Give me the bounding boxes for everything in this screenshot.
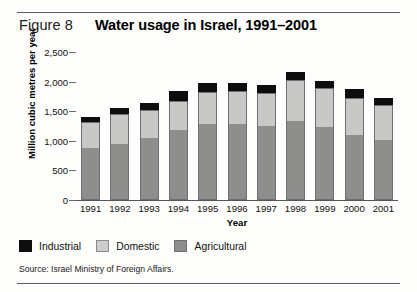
y-axis-tick-mark bbox=[69, 52, 76, 53]
x-axis-tick-label: 1995 bbox=[193, 203, 222, 214]
source-note: Source: Israel Ministry of Foreign Affai… bbox=[19, 264, 174, 274]
x-axis-tick-label: 2000 bbox=[339, 203, 368, 214]
y-axis-tick-label: 500 bbox=[52, 165, 68, 176]
bar-column[interactable] bbox=[345, 89, 364, 200]
bar-segment-agricultural bbox=[110, 144, 129, 200]
legend-swatch-agricultural bbox=[174, 240, 187, 252]
bar-segment-agricultural bbox=[345, 135, 364, 200]
y-axis-tick-mark bbox=[69, 82, 76, 83]
bar-segment-domestic bbox=[315, 88, 334, 126]
bar-segment-domestic bbox=[228, 91, 247, 124]
bar-segment-industrial bbox=[198, 83, 217, 92]
bar-segment-agricultural bbox=[315, 127, 334, 200]
bar-segment-industrial bbox=[228, 83, 247, 91]
bar-segment-agricultural bbox=[286, 121, 305, 200]
x-axis-tick-label: 1991 bbox=[76, 203, 105, 214]
y-axis-tick-mark bbox=[69, 200, 76, 201]
bar-segment-domestic bbox=[345, 98, 364, 135]
x-axis-tick-label: 1996 bbox=[222, 203, 251, 214]
bar-segment-agricultural bbox=[198, 124, 217, 200]
bar-segment-domestic bbox=[140, 110, 159, 138]
x-axis-tick-label: 1998 bbox=[281, 203, 310, 214]
bar-segment-domestic bbox=[286, 80, 305, 121]
y-axis-tick-mark bbox=[69, 141, 76, 142]
y-axis-tick-mark bbox=[69, 170, 76, 171]
bar-segment-domestic bbox=[169, 101, 188, 130]
legend-item-domestic[interactable]: Domestic bbox=[96, 240, 159, 252]
bar-segment-industrial bbox=[374, 98, 393, 105]
bar-segment-domestic bbox=[198, 92, 217, 124]
bar-segment-agricultural bbox=[140, 138, 159, 200]
x-axis-tick-label: 2001 bbox=[369, 203, 398, 214]
bar-column[interactable] bbox=[169, 91, 188, 200]
y-axis-tick-mark bbox=[69, 111, 76, 112]
chart-legend: IndustrialDomesticAgricultural bbox=[19, 240, 261, 252]
bar-column[interactable] bbox=[110, 108, 129, 200]
x-axis-tick-label: 1999 bbox=[310, 203, 339, 214]
y-axis-tick-label: 2,500 bbox=[44, 47, 68, 58]
bar-column[interactable] bbox=[315, 81, 334, 200]
legend-swatch-domestic bbox=[96, 240, 109, 252]
x-axis-tick-label: 1997 bbox=[252, 203, 281, 214]
y-axis-tick-label: 0 bbox=[63, 195, 68, 206]
bar-column[interactable] bbox=[198, 83, 217, 200]
legend-label: Domestic bbox=[116, 241, 159, 252]
x-axis-tick-label: 1994 bbox=[164, 203, 193, 214]
bar-column[interactable] bbox=[257, 85, 276, 200]
bar-segment-domestic bbox=[374, 105, 393, 141]
x-axis-tick-label: 1992 bbox=[105, 203, 134, 214]
bar-segment-agricultural bbox=[257, 126, 276, 200]
bar-segment-agricultural bbox=[81, 148, 100, 200]
bar-segment-domestic bbox=[257, 93, 276, 126]
x-axis-tick-label: 1993 bbox=[135, 203, 164, 214]
bar-segment-industrial bbox=[315, 81, 334, 88]
bar-segment-agricultural bbox=[228, 124, 247, 200]
x-axis-label: Year bbox=[76, 217, 398, 228]
bar-segment-industrial bbox=[169, 91, 188, 101]
bar-segment-agricultural bbox=[169, 130, 188, 200]
legend-label: Industrial bbox=[39, 241, 81, 252]
bar-column[interactable] bbox=[286, 72, 305, 200]
legend-item-agricultural[interactable]: Agricultural bbox=[174, 240, 246, 252]
y-axis-tick-label: 2,000 bbox=[44, 76, 68, 87]
legend-item-industrial[interactable]: Industrial bbox=[19, 240, 81, 252]
legend-swatch-industrial bbox=[19, 240, 32, 252]
bar-segment-domestic bbox=[110, 114, 129, 144]
figure-container: Figure 8 Water usage in Israel, 1991–200… bbox=[0, 0, 417, 292]
bar-column[interactable] bbox=[228, 83, 247, 200]
bar-column[interactable] bbox=[81, 117, 100, 200]
y-axis-tick-label: 1,000 bbox=[44, 135, 68, 146]
bar-segment-industrial bbox=[257, 85, 276, 93]
bar-segment-domestic bbox=[81, 122, 100, 148]
legend-label: Agricultural bbox=[194, 241, 246, 252]
bar-column[interactable] bbox=[140, 103, 159, 200]
bar-segment-agricultural bbox=[374, 140, 393, 200]
bar-segment-industrial bbox=[286, 72, 305, 80]
bar-column[interactable] bbox=[374, 98, 393, 200]
bar-segment-industrial bbox=[345, 89, 364, 98]
y-axis-tick-label: 1,500 bbox=[44, 106, 68, 117]
figure-bottom-rule bbox=[17, 283, 400, 284]
bar-segment-industrial bbox=[140, 103, 159, 110]
